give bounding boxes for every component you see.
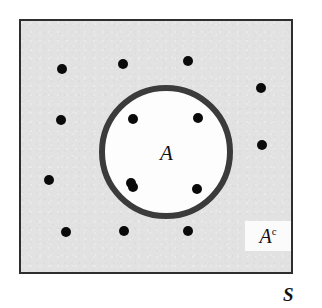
outcome-dot-outside bbox=[183, 56, 193, 66]
set-diagram-figure: A Ac S bbox=[0, 0, 322, 308]
complement-superscript: c bbox=[272, 225, 277, 237]
complement-label-box: Ac bbox=[245, 221, 291, 251]
event-a-label: A bbox=[160, 143, 173, 164]
outcome-dot-outside bbox=[44, 175, 54, 185]
outcome-dot-inside bbox=[128, 182, 138, 192]
outcome-dot-outside bbox=[119, 226, 129, 236]
outcome-dot-outside bbox=[57, 64, 67, 74]
outcome-dot-outside bbox=[256, 83, 266, 93]
complement-label: Ac bbox=[259, 226, 276, 246]
outcome-dot-outside bbox=[183, 226, 193, 236]
outcome-dot-outside bbox=[257, 140, 267, 150]
outcome-dot-inside bbox=[192, 184, 202, 194]
outcome-dot-outside bbox=[61, 227, 71, 237]
complement-base: A bbox=[259, 225, 271, 247]
outcome-dot-outside bbox=[56, 115, 66, 125]
outcome-dot-inside bbox=[128, 114, 138, 124]
outcome-dot-inside bbox=[193, 113, 203, 123]
sample-space-label: S bbox=[283, 285, 294, 304]
outcome-dot-outside bbox=[118, 59, 128, 69]
